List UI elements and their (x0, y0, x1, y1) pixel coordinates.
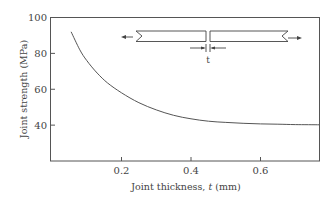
y-axis-label: Joint strength (MPa) (18, 40, 29, 139)
joint-strength-chart: 406080100 0.20.40.6 t Joint (0, 0, 335, 199)
butt-joint-diagram (121, 31, 302, 52)
plot-frame (51, 18, 320, 162)
strength-curve (71, 32, 320, 125)
y-tick-label: 80 (34, 48, 47, 59)
thickness-label: t (206, 55, 210, 65)
y-tick-label: 60 (34, 84, 47, 95)
y-tick-label: 40 (34, 120, 47, 131)
right-adherend (210, 31, 288, 42)
chart-container: 406080100 0.20.40.6 t Joint (0, 0, 335, 199)
x-tick-label: 0.2 (114, 165, 130, 176)
x-axis-label: Joint thickness, t (mm) (130, 181, 240, 192)
x-tick-label: 0.6 (253, 165, 269, 176)
x-axis-ticks: 0.20.40.6 (114, 157, 269, 176)
left-adherend (136, 31, 206, 42)
x-tick-label: 0.4 (183, 165, 199, 176)
y-tick-label: 100 (28, 12, 47, 23)
